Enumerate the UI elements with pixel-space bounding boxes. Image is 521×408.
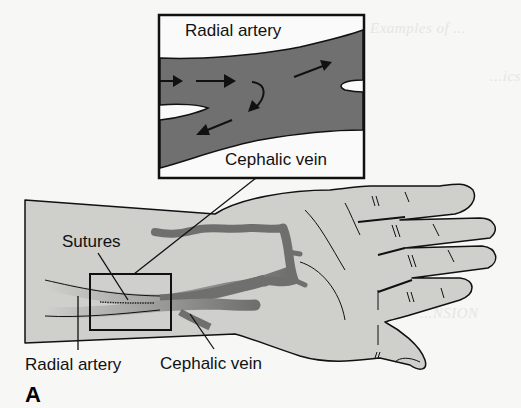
panel-letter: A bbox=[25, 384, 41, 406]
inset-cephalic-vein-label: Cephalic vein bbox=[225, 151, 327, 168]
cephalic-vein-label: Cephalic vein bbox=[160, 355, 262, 372]
sutures-label: Sutures bbox=[62, 233, 121, 250]
radial-artery-label: Radial artery bbox=[25, 356, 121, 373]
inset-radial-artery-label: Radial artery bbox=[185, 22, 281, 39]
